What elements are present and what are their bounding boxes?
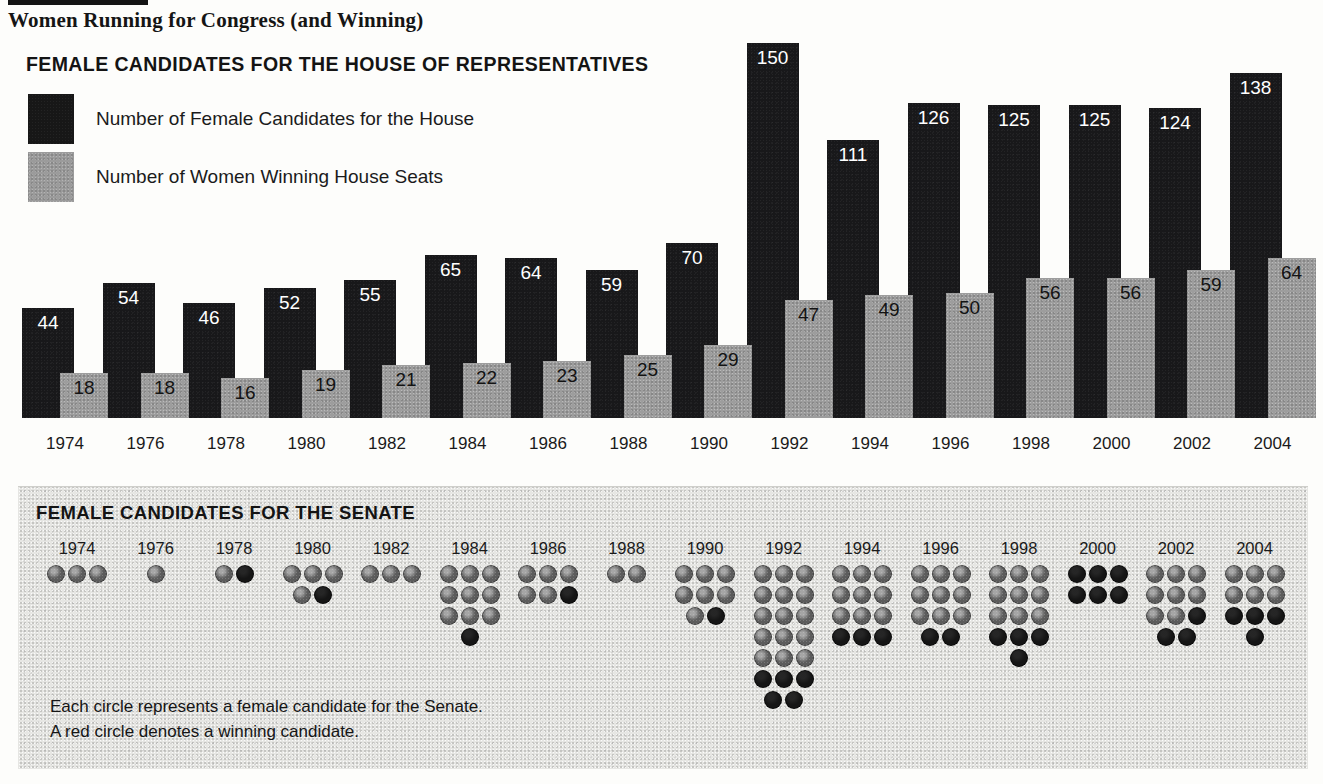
senate-candidate-dot: [1031, 586, 1049, 604]
senate-winner-dot: [1031, 628, 1049, 646]
bar-value-winners: 47: [785, 304, 833, 326]
bar-winners: 29: [704, 345, 752, 418]
senate-candidate-dot: [953, 607, 971, 625]
senate-candidate-dot: [754, 607, 772, 625]
senate-candidate-dot: [853, 586, 871, 604]
senate-dot-row: [1143, 586, 1209, 607]
senate-dot-row: [986, 628, 1052, 649]
bar-group: 5925: [586, 18, 672, 418]
senate-dot-row: [751, 649, 817, 670]
senate-dot-row: [437, 565, 503, 586]
senate-winner-dot: [1068, 565, 1086, 583]
bar-winners: 18: [141, 373, 189, 418]
senate-candidate-dot: [1010, 586, 1028, 604]
bar-winners: 64: [1268, 258, 1316, 418]
senate-dot-row: [437, 607, 503, 628]
senate-dot-row: [594, 565, 660, 586]
senate-candidate-dot: [461, 607, 479, 625]
senate-candidate-dot: [775, 628, 793, 646]
senate-dot-grid: [986, 565, 1052, 670]
bar-winners: 47: [785, 300, 833, 418]
senate-dot-row: [672, 607, 738, 628]
senate-winner-dot: [754, 670, 772, 688]
senate-dot-row: [280, 586, 346, 607]
senate-year-label: 2004: [1222, 539, 1288, 561]
senate-year-label: 1984: [437, 539, 503, 561]
senate-note-line-1: Each circle represents a female candidat…: [50, 695, 483, 720]
senate-year-label: 1974: [44, 539, 110, 561]
bar-value-winners: 56: [1026, 282, 1074, 304]
senate-year-label: 1990: [672, 539, 738, 561]
bar-winners: 56: [1107, 278, 1155, 418]
senate-dot-row: [358, 565, 424, 586]
senate-candidate-dot: [696, 565, 714, 583]
senate-candidate-dot: [1188, 565, 1206, 583]
senate-winner-dot: [853, 628, 871, 646]
bar-value-winners: 22: [463, 367, 511, 389]
bar-value-candidates: 65: [425, 259, 477, 281]
senate-candidate-dot: [796, 628, 814, 646]
senate-winner-dot: [1110, 565, 1128, 583]
senate-winner-dot: [1089, 586, 1107, 604]
senate-note: Each circle represents a female candidat…: [50, 695, 483, 744]
bar-group: 5521: [344, 18, 430, 418]
senate-candidate-dot: [796, 586, 814, 604]
senate-candidate-dot: [539, 565, 557, 583]
senate-dot-grid: [672, 565, 738, 628]
senate-candidate-dot: [717, 565, 735, 583]
senate-year-column: 1986: [515, 539, 581, 607]
senate-winner-dot: [1157, 628, 1175, 646]
senate-candidate-dot: [1246, 586, 1264, 604]
bar-group: 4616: [183, 18, 269, 418]
senate-candidate-dot: [68, 565, 86, 583]
senate-year-label: 1988: [594, 539, 660, 561]
senate-dot-row: [829, 628, 895, 649]
senate-dot-row: [437, 586, 503, 607]
senate-dot-row: [908, 628, 974, 649]
bar-value-winners: 19: [302, 374, 350, 396]
senate-candidate-dot: [796, 649, 814, 667]
bar-group: 4418: [22, 18, 108, 418]
senate-candidate-dot: [989, 565, 1007, 583]
senate-candidate-dot: [686, 607, 704, 625]
senate-year-label: 1994: [829, 539, 895, 561]
bar-value-winners: 16: [221, 382, 269, 404]
bar-value-winners: 64: [1268, 262, 1316, 284]
senate-candidate-dot: [482, 565, 500, 583]
senate-dot-row: [751, 565, 817, 586]
senate-winner-dot: [1188, 607, 1206, 625]
senate-candidate-dot: [696, 586, 714, 604]
bar-value-candidates: 125: [1069, 109, 1121, 131]
senate-dot-grid: [751, 565, 817, 712]
senate-dot-row: [1065, 565, 1131, 586]
senate-candidate-dot: [607, 565, 625, 583]
bar-value-candidates: 54: [103, 287, 155, 309]
senate-dot-row: [908, 565, 974, 586]
senate-candidate-dot: [1267, 565, 1285, 583]
senate-candidate-dot: [461, 586, 479, 604]
senate-winner-dot: [1267, 607, 1285, 625]
bar-group: 6423: [505, 18, 591, 418]
senate-candidate-dot: [325, 565, 343, 583]
bar-group: 11149: [827, 18, 913, 418]
senate-candidate-dot: [1246, 565, 1264, 583]
bar-winners: 19: [302, 370, 350, 418]
bar-value-candidates: 64: [505, 262, 557, 284]
bar-value-winners: 29: [704, 349, 752, 371]
bar-group: 13864: [1230, 18, 1316, 418]
senate-dot-row: [829, 586, 895, 607]
senate-dot-grid: [1065, 565, 1131, 607]
bar-value-candidates: 70: [666, 247, 718, 269]
senate-candidate-dot: [89, 565, 107, 583]
senate-dot-row: [751, 670, 817, 691]
senate-candidate-dot: [932, 586, 950, 604]
bar-value-candidates: 125: [988, 109, 1040, 131]
senate-winner-dot: [1246, 628, 1264, 646]
senate-candidate-dot: [1031, 607, 1049, 625]
bar-winners: 25: [624, 355, 672, 418]
senate-year-label: 2000: [1065, 539, 1131, 561]
senate-winner-dot: [1178, 628, 1196, 646]
senate-candidate-dot: [911, 607, 929, 625]
senate-year-column: 1990: [672, 539, 738, 628]
bar-group: 5418: [103, 18, 189, 418]
